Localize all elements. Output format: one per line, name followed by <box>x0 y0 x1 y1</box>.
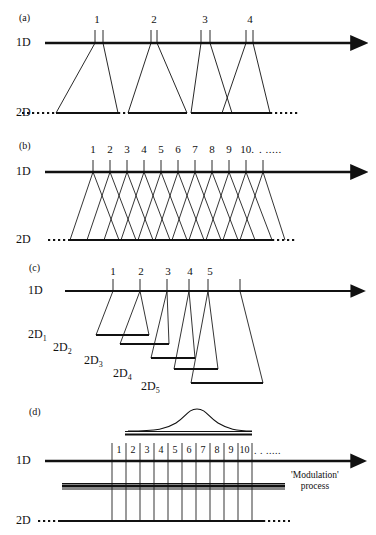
panel-a-graphic <box>22 30 352 113</box>
panel-c-2d-text-3: 2D <box>84 353 99 367</box>
panel-c-graphic <box>65 279 352 383</box>
modulation-label-line1: 'Modulation' <box>291 470 339 481</box>
panel-c-2d-sub-2: 2 <box>68 347 72 356</box>
panel-c-2d-label-3: 2D3 <box>84 353 103 369</box>
panel-c-2d-sub-5: 5 <box>156 386 160 395</box>
panel-a-tick-1: 1 <box>89 13 105 25</box>
panel-b-tick-8: 8 <box>205 143 219 155</box>
panel-b-2d-label: 2D <box>16 232 31 247</box>
panel-c-tick-4: 4 <box>183 265 197 277</box>
panel-b-tick-4: 4 <box>137 143 151 155</box>
panel-c-slice-3 <box>151 291 195 358</box>
panel-c-ticks <box>113 279 240 291</box>
panel-c-2d-text-2: 2D <box>53 340 68 354</box>
panel-a-2d-label: 2D <box>16 105 31 120</box>
panel-c-2d-sub-1: 1 <box>43 334 47 343</box>
panel-b-ellipsis: . ..... <box>259 143 282 155</box>
panel-c-slice-2 <box>120 291 169 344</box>
panel-b-tick-10: 10. <box>237 143 257 155</box>
panel-d-tick-1: 1 <box>112 444 126 455</box>
panel-c-2d-text-1: 2D <box>28 327 43 341</box>
panel-d-tick-6: 6 <box>182 444 196 455</box>
panel-b-tick-6: 6 <box>171 143 185 155</box>
panel-d-tick-10: 10 <box>236 444 253 455</box>
panel-a-tick-4: 4 <box>242 13 258 25</box>
panel-c-2d-text-5: 2D <box>141 379 156 393</box>
panel-d-ellipsis: . . ..... <box>254 445 281 456</box>
panel-a-label: (a) <box>19 12 30 23</box>
panel-b-tick-1: 1 <box>86 143 100 155</box>
panel-c-1d-label: 1D <box>28 283 43 298</box>
panel-c-tick-2: 2 <box>134 265 148 277</box>
panel-d-tick-7: 7 <box>196 444 210 455</box>
panel-b-tick-9: 9 <box>222 143 236 155</box>
panel-b-ticks <box>93 160 263 172</box>
modulation-label-line2: process <box>291 481 339 492</box>
panel-c-slice-1 <box>96 291 149 335</box>
figure-root: (a) 1D 2D 1 2 3 4 (b) 1D 2D 1 2 3 4 5 6 … <box>0 0 376 535</box>
panel-b-tick-5: 5 <box>154 143 168 155</box>
panel-d-tick-3: 3 <box>140 444 154 455</box>
panel-d-tick-2: 2 <box>126 444 140 455</box>
panel-a-tick-2: 2 <box>146 13 162 25</box>
panel-d-gaussian-peak <box>128 409 252 431</box>
panel-b-label: (b) <box>19 140 31 151</box>
panel-b-graphic <box>45 160 352 240</box>
panel-d-graphic <box>38 409 352 521</box>
panel-c-2d-label-4: 2D4 <box>113 366 132 382</box>
panel-c-2d-label-2: 2D2 <box>53 340 72 356</box>
panel-d-1d-label: 1D <box>16 453 31 468</box>
panel-a-1d-label: 1D <box>16 35 31 50</box>
panel-b-slices <box>70 172 285 240</box>
panel-d-2d-label: 2D <box>16 513 31 528</box>
panel-b-1d-label: 1D <box>16 164 31 179</box>
panel-d-label: (d) <box>29 406 41 417</box>
panel-d-tick-4: 4 <box>154 444 168 455</box>
panel-d-modulation-label: 'Modulation' process <box>291 470 339 491</box>
panel-c-2d-text-4: 2D <box>113 366 128 380</box>
panel-c-2d-sub-4: 4 <box>128 373 132 382</box>
panel-d-tick-8: 8 <box>210 444 224 455</box>
panel-a-tick-3: 3 <box>197 13 213 25</box>
panel-c-label: (c) <box>29 262 40 273</box>
panel-c-2d-label-5: 2D5 <box>141 379 160 395</box>
panel-b-tick-3: 3 <box>120 143 134 155</box>
panel-c-tick-1: 1 <box>106 265 120 277</box>
panel-d-tick-5: 5 <box>168 444 182 455</box>
panel-c-tick-5: 5 <box>203 265 217 277</box>
panel-c-tick-3: 3 <box>161 265 175 277</box>
panel-b-tick-7: 7 <box>188 143 202 155</box>
panel-b-tick-2: 2 <box>103 143 117 155</box>
panel-c-2d-label-1: 2D1 <box>28 327 47 343</box>
panel-c-2d-sub-3: 3 <box>99 360 103 369</box>
